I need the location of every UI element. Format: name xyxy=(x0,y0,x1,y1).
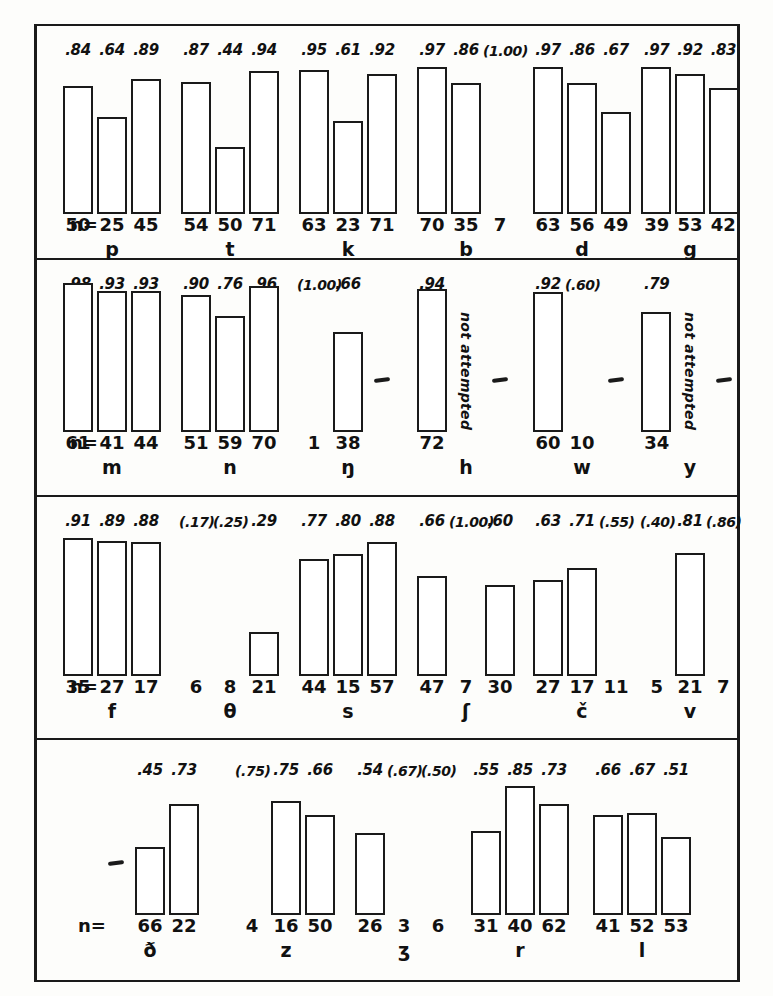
bar xyxy=(249,286,279,432)
bar-slot xyxy=(169,738,199,915)
bar-slot xyxy=(63,24,93,214)
group-label-č: č xyxy=(526,702,638,721)
n-value: 4 xyxy=(235,917,269,935)
bar-group-z: (.75).75.6641650z xyxy=(230,738,342,980)
n-value: 21 xyxy=(247,678,281,696)
bar-slot xyxy=(641,495,671,676)
bar-slot xyxy=(593,738,623,915)
n-value: 51 xyxy=(179,434,213,452)
group-label-h: h xyxy=(410,458,522,477)
bar-slot xyxy=(709,24,739,214)
panel-row-1: n=.84.64.89502545p.87.44.94545071t.95.61… xyxy=(34,24,740,258)
bar-slot xyxy=(299,258,329,432)
bar xyxy=(567,568,597,676)
n-values: 395342 xyxy=(640,216,740,234)
bar-slot xyxy=(215,24,245,214)
bar-slot xyxy=(567,24,597,214)
bar xyxy=(305,815,335,915)
n-value: 10 xyxy=(565,434,599,452)
n-value: 61 xyxy=(61,434,95,452)
n-value: 27 xyxy=(531,678,565,696)
plot-area xyxy=(94,738,206,915)
bar-group-d: .97.86.67635649d xyxy=(526,24,638,258)
bar xyxy=(709,88,739,214)
bar-slot xyxy=(181,24,211,214)
bar-slot xyxy=(539,738,569,915)
bar-slot xyxy=(355,738,385,915)
panel-row-4: n=.45.736622ð(.75).75.6641650z.54(.67)(.… xyxy=(34,738,740,980)
n-values: 70357 xyxy=(410,216,522,234)
bar xyxy=(451,83,481,214)
n-value: 8 xyxy=(213,678,247,696)
bar xyxy=(661,837,691,915)
n-value: 72 xyxy=(415,434,449,452)
group-label-θ: θ xyxy=(174,702,286,721)
bar-slot xyxy=(131,258,161,432)
bar-slot xyxy=(417,24,447,214)
not-attempted-label: not attempted xyxy=(458,312,474,430)
panel-divider-4 xyxy=(34,980,740,982)
n-values: 635649 xyxy=(526,216,638,234)
missing-data-dash xyxy=(608,377,624,383)
plot-area xyxy=(526,24,638,214)
n-value: 11 xyxy=(599,678,633,696)
plot-area xyxy=(640,24,740,214)
n-value: 17 xyxy=(565,678,599,696)
bar-slot xyxy=(63,495,93,676)
bar-slot xyxy=(451,24,481,214)
bar-group-č: .63.71(.55)271711č xyxy=(526,495,638,738)
n-value: 50 xyxy=(213,216,247,234)
bar-group-l: .66.67.51415253l xyxy=(586,738,698,980)
n-value: 66 xyxy=(133,917,167,935)
bar xyxy=(567,83,597,214)
bar-slot xyxy=(601,258,631,432)
bar-group-v: (.40).81(.86)5217v xyxy=(640,495,740,738)
bar xyxy=(417,576,447,676)
n-value: 70 xyxy=(247,434,281,452)
n-value: 41 xyxy=(95,434,129,452)
bar-slot: not attempted xyxy=(675,258,705,432)
bar xyxy=(63,86,93,214)
n-value: 41 xyxy=(591,917,625,935)
bar-group-ŋ: (1.00).66138ŋ xyxy=(292,258,404,495)
group-label-g: g xyxy=(640,240,740,259)
bar-group-y: .79not attempted34y xyxy=(640,258,740,495)
bar xyxy=(641,67,671,214)
plot-area xyxy=(640,495,740,676)
bar xyxy=(271,801,301,915)
group-label-b: b xyxy=(410,240,522,259)
bar-group-s: .77.80.88441557s xyxy=(292,495,404,738)
panel-row-3: n=.91.89.88352717f(.17)(.25).296821θ.77.… xyxy=(34,495,740,738)
bar-slot xyxy=(471,738,501,915)
bar xyxy=(333,332,363,432)
bar xyxy=(169,804,199,915)
n-value: 47 xyxy=(415,678,449,696)
n-value: 70 xyxy=(415,216,449,234)
plot-area: not attempted xyxy=(410,258,522,432)
n-value: 7 xyxy=(449,678,483,696)
group-label-l: l xyxy=(586,941,698,960)
bar-group-ʃ: .66(1.00).6047730ʃ xyxy=(410,495,522,738)
bar-slot xyxy=(249,495,279,676)
n-value: 22 xyxy=(167,917,201,935)
bar xyxy=(675,74,705,214)
bar xyxy=(627,813,657,915)
n-values: 502545 xyxy=(56,216,168,234)
bar-slot xyxy=(601,495,631,676)
bar-slot xyxy=(333,495,363,676)
bar-group-r: .55.85.73314062r xyxy=(464,738,576,980)
bar-slot xyxy=(63,258,93,432)
bar-slot xyxy=(567,495,597,676)
bar xyxy=(181,295,211,432)
group-label-y: y xyxy=(640,458,740,477)
bar xyxy=(593,815,623,915)
bar-slot xyxy=(305,738,335,915)
n-value: 25 xyxy=(95,216,129,234)
bar-slot xyxy=(131,495,161,676)
bar-group-k: .95.61.92632371k xyxy=(292,24,404,258)
n-value: 30 xyxy=(483,678,517,696)
n-value: 40 xyxy=(503,917,537,935)
plot-area xyxy=(410,495,522,676)
bar-slot xyxy=(97,258,127,432)
figure-canvas: n=.84.64.89502545p.87.44.94545071t.95.61… xyxy=(0,0,773,996)
